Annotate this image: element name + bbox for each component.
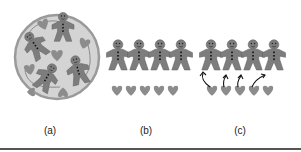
panel-c-illustration	[200, 40, 286, 96]
caption-b: (b)	[140, 125, 152, 136]
caption-a: (a)	[44, 125, 56, 136]
pairing-arrows	[200, 72, 265, 87]
panel-a-plate	[15, 12, 99, 99]
bottom-rule	[0, 148, 301, 150]
figure: (a) (b) (c)	[0, 0, 301, 152]
caption-c: (c)	[234, 125, 246, 136]
panel-b-illustration	[107, 40, 193, 96]
